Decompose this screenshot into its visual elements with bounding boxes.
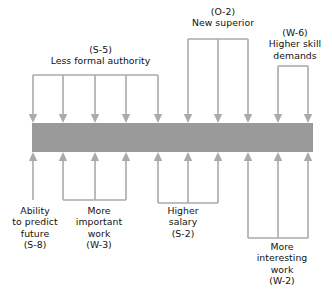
force-arrow-head-w-6-1 — [274, 114, 282, 123]
force-arrow-head-w-3-2 — [91, 152, 99, 161]
force-label-o2: (O-2) New superior — [163, 6, 283, 29]
force-arrow-head-s-2-1 — [154, 152, 162, 161]
force-label-s5: (S-5) Less formal authority — [18, 44, 183, 67]
force-arrow-head-s-5-3 — [91, 114, 99, 123]
force-arrow-head-w-3-3 — [122, 152, 130, 161]
force-label-s8: Ability to predict future (S-8) — [2, 205, 68, 251]
force-label-w2: More interesting work (W-2) — [238, 241, 326, 287]
central-gray-bar — [32, 123, 313, 152]
force-arrow-head-w-6-2 — [304, 114, 312, 123]
force-field-diagram: (S-5) Less formal authority (O-2) New su… — [0, 0, 332, 301]
force-arrow-head-s-2-3 — [214, 152, 222, 161]
force-label-w6: (W-6) Higher skill demands — [258, 27, 332, 61]
force-arrow-head-o-2-2 — [214, 114, 222, 123]
force-label-w3: More important work (W-3) — [62, 205, 136, 251]
force-arrow-head-o-2-3 — [244, 114, 252, 123]
force-arrow-head-s-8-1 — [29, 152, 37, 161]
force-arrow-head-w-3-1 — [59, 152, 67, 161]
force-arrow-head-s-5-1 — [29, 114, 37, 123]
force-arrow-head-o-2-1 — [184, 114, 192, 123]
force-arrow-head-w-2-3 — [304, 152, 312, 161]
force-arrow-head-w-2-1 — [244, 152, 252, 161]
force-arrow-head-s-5-5 — [154, 114, 162, 123]
force-label-s2: Higher salary (S-2) — [148, 205, 218, 239]
force-arrow-head-s-5-2 — [59, 114, 67, 123]
force-arrow-head-w-2-2 — [274, 152, 282, 161]
force-arrow-head-s-5-4 — [122, 114, 130, 123]
force-arrow-head-s-2-2 — [184, 152, 192, 161]
